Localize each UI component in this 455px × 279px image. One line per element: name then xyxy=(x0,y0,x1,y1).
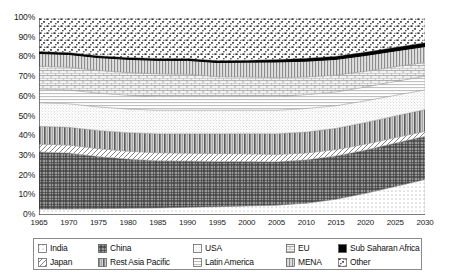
x-axis-tick-label: 1995 xyxy=(203,218,231,227)
y-axis-tick-label: 100% xyxy=(0,12,35,22)
y-axis-tick-label: 60% xyxy=(0,91,35,101)
legend-item-latin-america[interactable]: Latin America xyxy=(193,257,254,267)
legend-swatch-confetti xyxy=(338,258,347,267)
plot-area xyxy=(39,18,425,215)
legend-item-india[interactable]: India xyxy=(38,243,67,253)
legend-item-usa[interactable]: USA xyxy=(193,243,222,253)
legend-label: EU xyxy=(298,243,309,253)
legend-item-china[interactable]: China xyxy=(98,243,131,253)
legend-item-other[interactable]: Other xyxy=(338,257,370,267)
legend-row: JapanRest Asia PacificLatin AmericaMENAO… xyxy=(38,255,417,269)
legend-item-mena[interactable]: MENA xyxy=(286,257,322,267)
legend-swatch-diagonal-left xyxy=(38,258,47,267)
legend-label: Other xyxy=(350,257,370,267)
x-axis-tick-label: 2020 xyxy=(352,218,380,227)
y-axis-tick-label: 70% xyxy=(0,71,35,81)
legend-swatch-vertical-bars xyxy=(98,258,107,267)
legend-item-japan[interactable]: Japan xyxy=(38,257,72,267)
x-axis-tick-label: 1965 xyxy=(25,218,53,227)
stacked-area-chart: 0%10%20%30%40%50%60%70%80%90%100% 196519… xyxy=(0,0,455,279)
x-axis-tick-label: 2025 xyxy=(381,218,409,227)
x-axis-tick-label: 2005 xyxy=(263,218,291,227)
y-axis-tick-label: 90% xyxy=(0,32,35,42)
y-axis-tick-label: 10% xyxy=(0,189,35,199)
legend-label: USA xyxy=(205,243,222,253)
x-axis-tick-label: 2030 xyxy=(411,218,439,227)
x-axis-tick-label: 1975 xyxy=(84,218,112,227)
y-axis-tick-label: 80% xyxy=(0,51,35,61)
x-axis-tick-label: 1990 xyxy=(173,218,201,227)
legend-swatch-dots-sparse xyxy=(38,244,47,253)
legend-swatch-solid-black xyxy=(338,244,347,253)
legend-label: MENA xyxy=(298,257,322,267)
y-axis-tick-label: 20% xyxy=(0,170,35,180)
legend-swatch-brick xyxy=(286,244,295,253)
legend-label: China xyxy=(110,243,131,253)
legend-swatch-dense-vertical xyxy=(286,258,295,267)
legend-label: Rest Asia Pacific xyxy=(110,257,170,267)
plot-svg xyxy=(39,18,425,215)
legend-row: IndiaChinaUSAEUSub Saharan Africa xyxy=(38,241,417,255)
x-axis-tick-label: 1985 xyxy=(144,218,172,227)
legend-swatch-crosshatch-dark xyxy=(98,244,107,253)
legend-label: India xyxy=(50,243,67,253)
legend-label: Latin America xyxy=(205,257,254,267)
x-axis-tick-label: 1970 xyxy=(55,218,83,227)
legend-label: Japan xyxy=(50,257,72,267)
x-axis-tick-label: 1980 xyxy=(114,218,142,227)
legend-swatch-dots-fine xyxy=(193,244,202,253)
y-axis-tick-label: 30% xyxy=(0,150,35,160)
x-axis-tick-label: 2015 xyxy=(322,218,350,227)
x-axis-tick-label: 2000 xyxy=(233,218,261,227)
legend-swatch-horizontal-lines xyxy=(193,258,202,267)
chart-legend: IndiaChinaUSAEUSub Saharan AfricaJapanRe… xyxy=(33,238,422,270)
legend-item-rest-asia-pacific[interactable]: Rest Asia Pacific xyxy=(98,257,170,267)
y-axis-tick-label: 40% xyxy=(0,130,35,140)
legend-item-eu[interactable]: EU xyxy=(286,243,309,253)
x-axis-tick-label: 2010 xyxy=(292,218,320,227)
y-axis-tick-label: 50% xyxy=(0,111,35,121)
legend-item-sub-saharan-africa[interactable]: Sub Saharan Africa xyxy=(338,243,420,253)
legend-label: Sub Saharan Africa xyxy=(350,243,420,253)
